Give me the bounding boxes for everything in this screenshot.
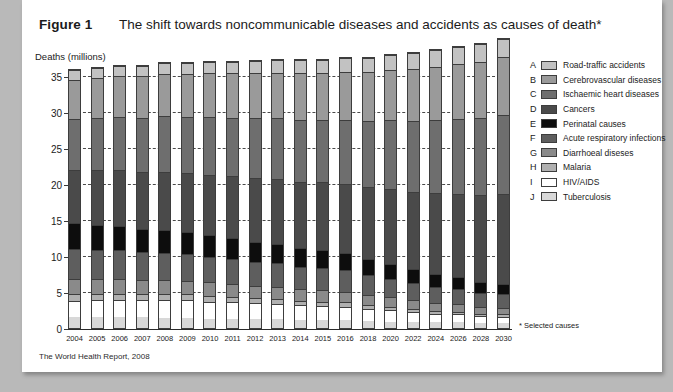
bar-2024[interactable]	[429, 49, 442, 329]
bar-segment-B	[159, 74, 170, 116]
legend-item-F[interactable]: FAcute respiratory infections	[530, 131, 673, 146]
bar-segment-D	[159, 172, 170, 231]
bar-segment-D	[227, 176, 238, 238]
legend-swatch-icon	[541, 75, 557, 84]
y-axis-tick-label: 20	[40, 180, 62, 191]
bar-segment-F	[204, 257, 215, 283]
bar-segment-I	[69, 301, 80, 317]
x-axis-line	[68, 329, 512, 330]
bar-segment-C	[408, 121, 419, 192]
bar-2011[interactable]	[226, 61, 239, 329]
legend-label: Cancers	[563, 104, 595, 114]
bar-segment-C	[69, 119, 80, 170]
bar-2020[interactable]	[384, 54, 397, 329]
plot-area	[68, 63, 510, 329]
bar-segment-C	[204, 117, 215, 175]
bar-2028[interactable]	[474, 43, 487, 329]
bar-segment-E	[498, 284, 509, 295]
bar-segment-B	[340, 72, 351, 120]
bar-2016[interactable]	[339, 57, 352, 329]
legend-letter: G	[530, 148, 541, 158]
legend-label: Diarrhoeal diseses	[563, 148, 633, 158]
legend-item-E[interactable]: EPerinatal causes	[530, 116, 673, 131]
bar-2008[interactable]	[158, 62, 171, 329]
bar-segment-J	[295, 320, 306, 328]
bar-2009[interactable]	[181, 62, 194, 329]
bar-segment-D	[272, 179, 283, 244]
bar-segment-F	[363, 275, 374, 295]
bar-2010[interactable]	[203, 61, 216, 329]
legend-letter: C	[530, 89, 541, 99]
figure-title: The shift towards noncommunicable diseas…	[119, 17, 602, 32]
bar-2015[interactable]	[316, 59, 329, 329]
bar-segment-I	[430, 314, 441, 323]
legend-swatch-icon	[541, 105, 557, 114]
bar-2030[interactable]	[497, 38, 510, 329]
bar-segment-I	[408, 312, 419, 322]
bar-segment-D	[69, 170, 80, 223]
bar-segment-J	[114, 317, 125, 328]
bar-segment-A	[475, 44, 486, 62]
bar-2004[interactable]	[68, 69, 81, 329]
bar-segment-D	[475, 195, 486, 281]
bar-2006[interactable]	[113, 65, 126, 329]
bar-segment-D	[408, 192, 419, 270]
bar-segment-F	[250, 262, 261, 286]
legend-item-G[interactable]: GDiarrhoeal diseses	[530, 146, 673, 161]
bar-segment-A	[363, 58, 374, 72]
bar-segment-I	[114, 300, 125, 317]
bar-segment-D	[453, 194, 464, 278]
bar-segment-A	[182, 63, 193, 74]
legend-item-C[interactable]: CIschaemic heart diseases	[530, 87, 673, 102]
bar-2014[interactable]	[294, 59, 307, 329]
bar-segment-G	[453, 304, 464, 311]
bar-segment-F	[430, 287, 441, 303]
bar-segment-E	[227, 238, 238, 259]
y-axis-tick-label: 0	[40, 324, 62, 335]
bar-segment-I	[475, 316, 486, 323]
bar-segment-B	[430, 67, 441, 121]
bar-segment-J	[498, 323, 509, 328]
bar-segment-A	[92, 68, 103, 77]
bar-segment-D	[498, 194, 509, 283]
bar-segment-I	[182, 300, 193, 318]
bar-2022[interactable]	[407, 52, 420, 329]
legend-item-H[interactable]: HMalaria	[530, 160, 673, 175]
bar-segment-G	[69, 279, 80, 295]
bar-segment-A	[385, 55, 396, 70]
legend-swatch-icon	[541, 119, 557, 128]
bar-segment-F	[69, 249, 80, 279]
bar-segment-C	[272, 118, 283, 179]
bar-segment-C	[453, 119, 464, 194]
bar-segment-J	[363, 321, 374, 328]
legend-swatch-icon	[541, 163, 557, 172]
legend-swatch-icon	[541, 90, 557, 99]
legend-item-D[interactable]: DCancers	[530, 102, 673, 117]
bar-2013[interactable]	[271, 59, 284, 329]
legend-swatch-icon	[541, 61, 557, 70]
bar-segment-J	[137, 317, 148, 328]
bar-segment-C	[363, 121, 374, 187]
bar-segment-J	[69, 317, 80, 328]
figure-number: Figure 1	[39, 17, 92, 32]
bar-segment-D	[317, 182, 328, 250]
bar-segment-I	[272, 304, 283, 320]
bar-segment-E	[114, 226, 125, 250]
legend-item-J[interactable]: JTuberculosis	[530, 189, 673, 204]
bar-segment-B	[137, 76, 148, 117]
bar-segment-B	[69, 80, 80, 119]
bar-segment-E	[69, 223, 80, 249]
legend-label: Acute respiratory infections	[563, 133, 666, 143]
legend-item-A[interactable]: ARoad-traffic accidents	[530, 58, 673, 73]
grid-line	[68, 76, 510, 77]
legend-item-B[interactable]: BCerebrovascular diseases	[530, 73, 673, 88]
bar-2018[interactable]	[362, 57, 375, 329]
figure-panel: Figure 1 The shift towards noncommunicab…	[22, 0, 662, 372]
bar-2005[interactable]	[91, 67, 104, 329]
legend-item-I[interactable]: IHIV/AIDS	[530, 175, 673, 190]
bar-2026[interactable]	[452, 46, 465, 329]
bar-segment-G	[408, 300, 419, 309]
bar-2012[interactable]	[249, 60, 262, 329]
bar-segment-E	[204, 235, 215, 256]
bar-2007[interactable]	[136, 65, 149, 329]
